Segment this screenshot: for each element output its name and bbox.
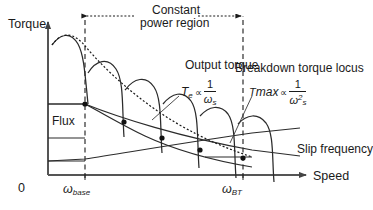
operating-point-3 <box>159 135 164 140</box>
output-torque-equation: Te∝1ωs <box>181 79 216 106</box>
torque-speed-curve-1 <box>52 35 88 104</box>
torque-speed-curve-2 <box>88 61 124 137</box>
te-fraction: 1ωs <box>204 79 217 106</box>
operating-point-2 <box>121 119 126 124</box>
operating-point-dots <box>82 101 245 160</box>
flux-label: Flux <box>52 115 75 127</box>
te-numerator: 1 <box>204 79 217 91</box>
omega-bt-tick-label: ωBT <box>222 183 242 197</box>
leader-line-output-torque <box>152 96 179 120</box>
slip-frequency-label: Slip frequency <box>297 143 373 155</box>
tmax-symbol: T <box>249 86 256 98</box>
tmax-denominator: ω2s <box>289 93 306 108</box>
te-denominator: ωs <box>204 93 217 107</box>
y-axis-label: Torque <box>8 18 46 31</box>
origin-label: 0 <box>18 182 25 195</box>
operating-point-5 <box>240 155 245 160</box>
tmax-numerator: 1 <box>289 79 306 91</box>
tmax-denominator-subscript: s <box>302 98 306 107</box>
tmax-fraction: 1ω2s <box>289 79 306 107</box>
te-operator: ∝ <box>193 87 204 98</box>
marker-lines <box>85 16 243 178</box>
tmax-denominator-symbol: ω <box>289 93 298 105</box>
omega-bt-symbol: ω <box>222 182 232 196</box>
omega-base-subscript: base <box>73 188 90 197</box>
tmax-subscript: max <box>256 85 279 99</box>
constant-power-region-label-line1: Constant <box>152 4 200 16</box>
omega-bt-subscript: BT <box>232 188 242 197</box>
te-denominator-subscript: s <box>212 97 216 106</box>
breakdown-torque-locus-label: Breakdown torque locus <box>235 62 364 74</box>
operating-point-4 <box>197 147 202 152</box>
omega-base-symbol: ω <box>63 182 73 196</box>
omega-base-tick-label: ωbase <box>63 183 90 197</box>
tie-lines <box>48 104 252 161</box>
breakdown-torque-equation: Tmax∝1ω2s <box>249 79 306 107</box>
operating-point-1 <box>82 101 87 106</box>
constant-power-region-label-line2: power region <box>140 17 209 29</box>
x-axis-label: Speed <box>313 170 349 183</box>
tmax-operator: ∝ <box>278 87 289 98</box>
